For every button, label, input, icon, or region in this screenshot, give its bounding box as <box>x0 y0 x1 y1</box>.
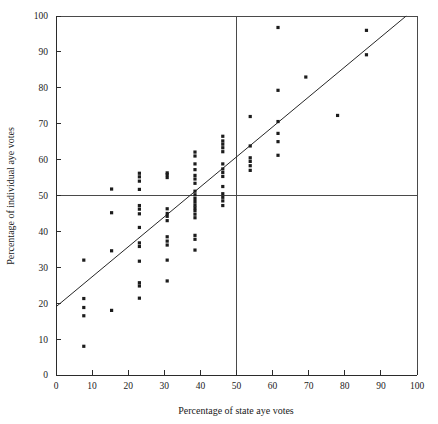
data-point <box>193 174 196 177</box>
data-point <box>166 176 169 179</box>
scatter-plot-figure: 0102030405060708090100 01020304050607080… <box>0 0 438 424</box>
data-point <box>221 185 224 188</box>
data-point <box>193 200 196 203</box>
x-tick-label: 100 <box>410 381 425 391</box>
data-points <box>82 26 368 348</box>
data-point <box>110 187 113 190</box>
data-point <box>82 314 85 317</box>
y-tick-label: 10 <box>39 335 49 345</box>
data-point <box>138 208 141 211</box>
data-point <box>193 206 196 209</box>
x-tick-label: 0 <box>54 381 59 391</box>
data-point <box>193 162 196 165</box>
x-tick-label: 60 <box>268 381 278 391</box>
y-tick-label: 70 <box>39 119 49 129</box>
data-point <box>193 234 196 237</box>
data-point <box>138 297 141 300</box>
data-point <box>193 213 196 216</box>
y-tick-label: 100 <box>34 11 49 21</box>
data-point <box>138 212 141 215</box>
data-point <box>110 249 113 252</box>
data-point <box>249 169 252 172</box>
data-point <box>82 306 85 309</box>
x-tick-label: 10 <box>87 381 97 391</box>
data-point <box>336 114 339 117</box>
y-tick-label: 20 <box>39 299 49 309</box>
data-point <box>276 89 279 92</box>
y-tick-label: 40 <box>39 227 49 237</box>
data-point <box>193 182 196 185</box>
data-point <box>138 245 141 248</box>
x-axis-ticks: 0102030405060708090100 <box>54 370 425 391</box>
data-point <box>304 75 307 78</box>
data-point <box>276 154 279 157</box>
data-point <box>138 172 141 175</box>
y-axis-title: Percentage of individual aye votes <box>5 127 16 265</box>
data-point <box>138 241 141 244</box>
data-point <box>166 235 169 238</box>
data-point <box>138 284 141 287</box>
data-point <box>221 167 224 170</box>
data-point <box>221 204 224 207</box>
data-point <box>193 177 196 180</box>
data-point <box>166 219 169 222</box>
data-point <box>82 345 85 348</box>
y-tick-label: 50 <box>39 191 49 201</box>
data-point <box>138 204 141 207</box>
data-point <box>221 199 224 202</box>
data-point <box>276 120 279 123</box>
y-tick-label: 60 <box>39 155 49 165</box>
x-tick-label: 80 <box>340 381 350 391</box>
data-point <box>221 146 224 149</box>
data-point <box>193 154 196 157</box>
data-point <box>365 53 368 56</box>
data-point <box>110 309 113 312</box>
regression-line <box>56 16 406 307</box>
data-point <box>138 180 141 183</box>
data-point <box>110 211 113 214</box>
data-point <box>166 215 169 218</box>
data-point <box>166 171 169 174</box>
reference-lines <box>56 16 417 375</box>
data-point <box>249 156 252 159</box>
data-point <box>249 164 252 167</box>
y-tick-label: 80 <box>39 83 49 93</box>
data-point <box>82 297 85 300</box>
data-point <box>221 162 224 165</box>
x-tick-label: 40 <box>196 381 206 391</box>
x-tick-label: 30 <box>160 381 170 391</box>
data-point <box>249 160 252 163</box>
data-point <box>138 175 141 178</box>
data-point <box>138 188 141 191</box>
data-point <box>221 135 224 138</box>
data-point <box>193 190 196 193</box>
data-point <box>166 279 169 282</box>
data-point <box>365 29 368 32</box>
y-tick-label: 0 <box>43 370 48 380</box>
data-point <box>221 171 224 174</box>
data-point <box>249 115 252 118</box>
data-point <box>166 239 169 242</box>
y-tick-label: 30 <box>39 263 49 273</box>
data-point <box>166 259 169 262</box>
data-point <box>276 26 279 29</box>
data-point <box>166 212 169 215</box>
data-point <box>249 144 252 147</box>
data-point <box>193 193 196 196</box>
data-point <box>221 175 224 178</box>
data-point <box>138 260 141 263</box>
data-point <box>193 216 196 219</box>
data-point <box>193 197 196 200</box>
data-point <box>138 226 141 229</box>
data-point <box>193 209 196 212</box>
data-point <box>221 150 224 153</box>
data-point <box>82 259 85 262</box>
x-tick-label: 20 <box>123 381 133 391</box>
data-point <box>193 238 196 241</box>
data-point <box>138 281 141 284</box>
chart-canvas: 0102030405060708090100 01020304050607080… <box>0 0 438 424</box>
y-axis-ticks: 0102030405060708090100 <box>34 11 61 380</box>
data-point <box>221 196 224 199</box>
data-point <box>276 132 279 135</box>
data-point <box>193 203 196 206</box>
